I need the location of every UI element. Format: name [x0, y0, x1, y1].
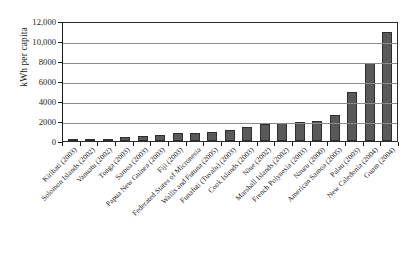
y-tick-label: 0 — [52, 137, 56, 147]
gridline — [63, 43, 397, 44]
bar — [295, 122, 305, 141]
bar — [365, 63, 375, 141]
bar — [190, 133, 200, 141]
bar — [382, 32, 392, 141]
y-tick-label: 6000 — [39, 77, 56, 87]
bar — [120, 137, 130, 141]
bar — [330, 115, 340, 141]
bar — [277, 123, 287, 141]
bar — [173, 133, 183, 141]
bar — [260, 124, 270, 141]
gridline — [63, 63, 397, 64]
plot-area — [62, 22, 398, 142]
y-tick-label: 8000 — [39, 57, 56, 67]
bar — [68, 139, 78, 141]
bar-chart: kWh per capita 12,00010,0008000600040002… — [0, 0, 412, 268]
y-tick-label: 12,000 — [32, 17, 56, 27]
bar — [85, 139, 95, 141]
bar — [242, 127, 252, 141]
y-tick-label: 4000 — [39, 97, 56, 107]
bar — [103, 139, 113, 141]
gridline — [63, 123, 397, 124]
y-tick-label: 10,000 — [32, 37, 56, 47]
gridline — [63, 103, 397, 104]
bar — [225, 130, 235, 141]
bar — [155, 135, 165, 141]
bar — [138, 136, 148, 141]
x-tick-mark — [398, 142, 399, 146]
bar — [347, 92, 357, 141]
x-axis-labels: Kiribati (2003)Solomon Islands (2002)Van… — [62, 146, 398, 266]
gridline — [63, 83, 397, 84]
bar — [207, 132, 217, 141]
y-axis-ticks: 12,00010,00080006000400020000 — [0, 0, 62, 142]
y-tick-label: 2000 — [39, 117, 56, 127]
